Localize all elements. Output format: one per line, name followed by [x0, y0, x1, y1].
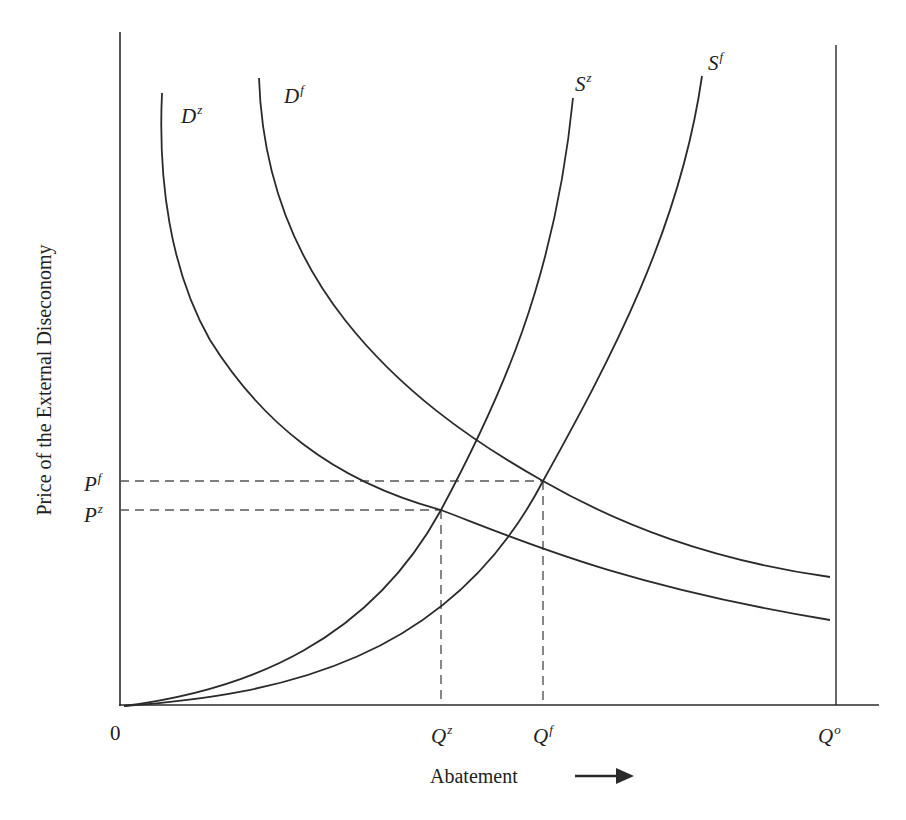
pf-label: Pf: [84, 471, 101, 495]
qo-label-main: Q: [818, 724, 833, 748]
pz-label-sup: z: [98, 501, 103, 516]
sz-label-main: S: [575, 72, 586, 96]
pz-label-main: P: [84, 503, 97, 527]
pf-label-sup: f: [98, 470, 102, 485]
supply-curve-sz: [124, 98, 573, 706]
dz-label: Dz: [181, 103, 202, 127]
sf-label: Sf: [708, 50, 723, 74]
qf-label-main: Q: [533, 724, 548, 748]
sz-label-sup: z: [587, 70, 592, 85]
qf-label-sup: f: [549, 722, 553, 737]
demand-curve-df: [259, 78, 830, 577]
df-label-sup: f: [300, 82, 304, 97]
x-axis-title-text: Abatement: [430, 765, 518, 787]
diagram-canvas: [0, 0, 906, 820]
sf-label-sup: f: [720, 49, 724, 64]
qz-label-main: Q: [431, 724, 446, 748]
pz-label: Pz: [84, 502, 103, 526]
sz-label: Sz: [575, 71, 592, 95]
qf-label: Qf: [533, 723, 553, 747]
qz-label-sup: z: [447, 722, 452, 737]
dz-label-sup: z: [197, 102, 202, 117]
qo-label-sup: o: [834, 722, 841, 737]
x-axis-title: Abatement: [430, 766, 518, 786]
sf-label-main: S: [708, 51, 719, 75]
y-axis-title: Price of the External Diseconomy: [33, 244, 56, 515]
qz-label: Qz: [431, 723, 452, 747]
qo-label: Qo: [818, 723, 841, 747]
df-label-main: D: [284, 84, 299, 108]
origin-label: 0: [110, 723, 121, 744]
demand-curve-dz: [161, 93, 830, 620]
pf-label-main: P: [84, 472, 97, 496]
dz-label-main: D: [181, 104, 196, 128]
df-label: Df: [284, 83, 304, 107]
